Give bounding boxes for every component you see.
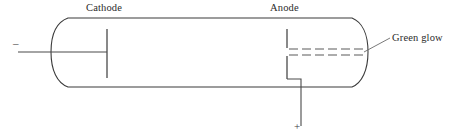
negative-terminal-sign: – [13,38,19,49]
positive-terminal-sign: + [294,121,300,132]
discharge-tube-figure: Cathode Anode Green glow – + [0,0,458,139]
anode-label: Anode [270,3,299,14]
cathode-ray-band [289,49,366,55]
green-glow-label: Green glow [392,33,443,44]
diagram-canvas [0,0,458,139]
cathode-label: Cathode [86,3,122,14]
anode-lead-group [287,79,301,126]
anode-lead-wire [287,79,301,126]
